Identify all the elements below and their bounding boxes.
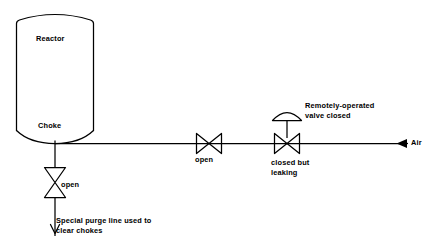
air-inlet-label: Air: [411, 138, 422, 148]
choke-label: Choke: [38, 121, 61, 131]
remote-valve-state-label: closed but leaking: [271, 158, 309, 177]
diagram-canvas: Reactor Choke open Special purge line us…: [0, 0, 435, 242]
reactor-label: Reactor: [36, 34, 65, 44]
remote-valve-actuator-label: Remotely-operated valve closed: [305, 101, 375, 120]
process-flow-diagram: [0, 0, 435, 242]
purge-valve-state-label: open: [61, 180, 79, 190]
reactor-vessel-outline: [17, 15, 94, 131]
air-inlet-arrow: [397, 139, 409, 148]
purge-line-note: Special purge line used to clear chokes: [56, 216, 151, 235]
line-valve-state-label: open: [195, 155, 213, 165]
valve-actuator-icon: [273, 113, 302, 139]
